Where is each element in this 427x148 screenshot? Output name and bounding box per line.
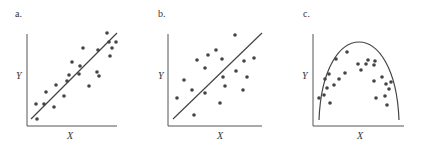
data-point (364, 62, 368, 66)
data-point (233, 33, 237, 37)
data-point (67, 73, 71, 77)
data-point (114, 40, 118, 44)
data-point (356, 62, 360, 66)
data-point (34, 102, 38, 106)
data-point (345, 50, 349, 54)
data-point (322, 93, 326, 97)
data-point (218, 101, 222, 105)
data-point (328, 101, 332, 105)
data-point (374, 96, 378, 100)
data-point (192, 113, 196, 117)
axes-a (27, 34, 117, 126)
data-point (110, 46, 114, 50)
data-point (175, 96, 179, 100)
axes-b (168, 34, 262, 126)
data-point (108, 54, 112, 58)
data-point (70, 60, 74, 64)
data-point (220, 57, 224, 61)
data-point (372, 79, 376, 83)
data-point (97, 74, 101, 78)
data-point (385, 103, 389, 107)
data-point (52, 105, 56, 109)
data-point (195, 58, 199, 62)
fit-line (31, 33, 117, 119)
data-point (65, 79, 69, 83)
data-point (221, 75, 225, 79)
data-point (105, 31, 109, 35)
data-point (78, 64, 82, 68)
fit-curve (319, 42, 399, 120)
data-point (384, 82, 388, 86)
data-point (35, 117, 39, 121)
data-point (325, 86, 329, 90)
data-point (334, 57, 338, 61)
data-point (327, 72, 331, 76)
data-point (223, 84, 227, 88)
data-point (323, 77, 327, 81)
data-point (373, 59, 377, 63)
data-point (42, 102, 46, 106)
data-point (77, 72, 81, 76)
data-point (380, 75, 384, 79)
data-point (359, 68, 363, 72)
data-point (366, 58, 370, 62)
data-point (337, 77, 341, 81)
data-point (96, 48, 100, 52)
data-point (241, 88, 245, 92)
data-point (234, 69, 238, 73)
data-point (343, 71, 347, 75)
data-point (81, 46, 85, 50)
scatter-plots (0, 0, 427, 148)
data-point (190, 88, 194, 92)
data-point (203, 66, 207, 70)
data-point (107, 40, 111, 44)
data-point (383, 94, 387, 98)
data-point (245, 75, 249, 79)
data-points (34, 31, 393, 121)
data-point (182, 78, 186, 82)
fit-line (173, 33, 262, 119)
data-point (95, 70, 99, 74)
data-point (372, 63, 376, 67)
data-point (203, 91, 207, 95)
data-point (87, 84, 91, 88)
data-point (389, 80, 393, 84)
data-point (242, 59, 246, 63)
data-point (206, 53, 210, 57)
fit-lines (31, 33, 399, 120)
axes-c (313, 34, 404, 126)
data-point (44, 90, 48, 94)
data-point (332, 83, 336, 87)
data-point (54, 83, 58, 87)
data-point (317, 96, 321, 100)
data-point (252, 56, 256, 60)
data-point (387, 87, 391, 91)
data-point (62, 94, 66, 98)
data-point (214, 48, 218, 52)
